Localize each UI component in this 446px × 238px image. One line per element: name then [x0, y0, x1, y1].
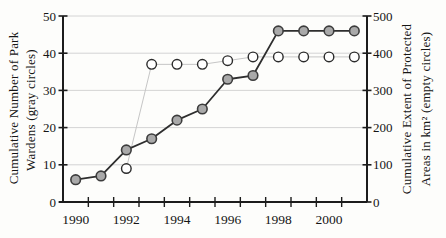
empty-data-point	[122, 164, 132, 174]
left-tick-label: 30	[43, 83, 56, 98]
empty-data-point	[324, 52, 334, 62]
empty-data-point	[248, 52, 258, 62]
left-tick-label: 40	[43, 46, 56, 61]
left-tick-label: 0	[50, 195, 57, 210]
gray-data-point	[299, 26, 309, 36]
left-tick-label: 10	[43, 157, 56, 172]
right-tick-label: 100	[373, 157, 393, 172]
right-axis-title-line2: Areas in km² (empty circles)	[418, 32, 434, 187]
gray-data-point	[96, 171, 106, 181]
empty-data-point	[198, 60, 208, 70]
right-tick-label: 0	[373, 195, 380, 210]
chart: 0102030405001002003004005001990199219941…	[0, 0, 446, 238]
gray-data-point	[198, 104, 208, 114]
x-tick-label: 1994	[164, 212, 191, 227]
empty-data-point	[350, 52, 360, 62]
empty-series-line	[126, 57, 354, 169]
empty-data-point	[172, 60, 182, 70]
gray-data-point	[122, 145, 132, 155]
left-axis-title-line1: Cumulative Number of Park	[6, 32, 22, 185]
x-tick-label: 1998	[265, 212, 292, 227]
gray-data-point	[248, 71, 258, 81]
empty-data-point	[274, 52, 284, 62]
x-tick-label: 2000	[316, 212, 343, 227]
gray-data-point	[274, 26, 284, 36]
left-tick-label: 20	[43, 120, 56, 135]
right-tick-label: 500	[373, 9, 393, 24]
right-axis-title-line1: Cumulative Extent of Protected	[399, 24, 415, 194]
gray-data-point	[172, 115, 182, 125]
chart-canvas: 0102030405001002003004005001990199219941…	[0, 0, 446, 238]
empty-data-point	[147, 60, 157, 70]
right-tick-label: 200	[373, 120, 393, 135]
gray-data-point	[71, 175, 81, 185]
empty-data-point	[299, 52, 309, 62]
gray-data-point	[350, 26, 360, 36]
right-tick-label: 300	[373, 83, 393, 98]
right-tick-label: 400	[373, 46, 393, 61]
empty-data-point	[223, 56, 233, 66]
gray-data-point	[147, 134, 157, 144]
gray-data-point	[223, 74, 233, 84]
gray-data-point	[324, 26, 334, 36]
x-tick-label: 1990	[62, 212, 89, 227]
left-tick-label: 50	[43, 9, 56, 24]
left-axis-title-line2: Wardens (gray circles)	[23, 49, 39, 171]
x-tick-label: 1992	[113, 212, 140, 227]
x-tick-label: 1996	[214, 212, 241, 227]
